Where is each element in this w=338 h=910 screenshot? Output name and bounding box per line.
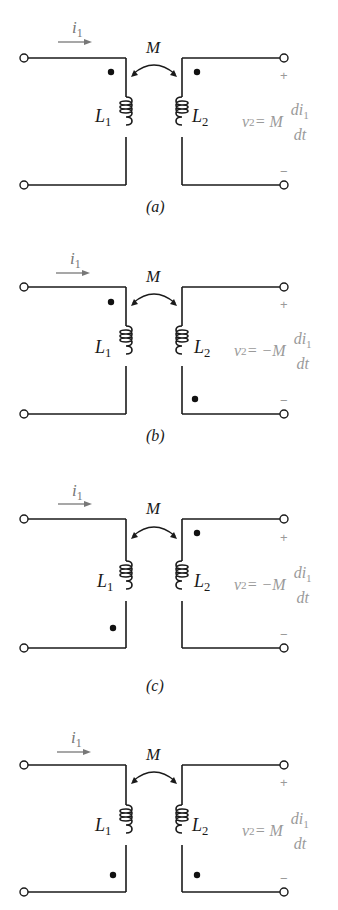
inductor-L1-label: L1	[95, 337, 111, 361]
inductor-L1-label: L1	[95, 815, 111, 839]
terminal-in-bottom	[20, 410, 28, 418]
dot-marker-L2	[194, 530, 200, 536]
dot-marker-L1	[110, 872, 116, 878]
dot-marker-L2	[194, 872, 200, 878]
mutual-inductance-label: M	[146, 745, 160, 765]
current-label: i1	[72, 481, 83, 504]
dot-marker-L1	[108, 299, 114, 305]
current-label: i1	[70, 249, 81, 272]
plus-sign: +	[280, 297, 288, 312]
terminal-out-top	[280, 283, 288, 291]
current-label: i1	[71, 728, 82, 751]
terminal-out-top	[280, 54, 288, 62]
circuit-panel-a: i1 M L1 L2 + − v2 = M di1dt (a)	[0, 0, 338, 230]
terminal-in-top	[20, 761, 28, 769]
dot-marker-L1	[110, 625, 116, 631]
terminal-in-top	[20, 515, 28, 523]
minus-sign: −	[280, 393, 288, 408]
plus-sign: +	[280, 530, 288, 545]
dot-marker-L1	[108, 69, 114, 75]
current-label: i1	[72, 18, 83, 41]
terminal-in-bottom	[20, 888, 28, 896]
terminal-in-bottom	[20, 644, 28, 652]
inductor-L2-label: L2	[192, 815, 208, 839]
mutual-inductance-label: M	[146, 38, 160, 58]
terminal-out-bottom	[280, 410, 288, 418]
terminal-out-bottom	[280, 888, 288, 896]
terminal-out-bottom	[280, 644, 288, 652]
terminal-out-top	[280, 761, 288, 769]
plus-sign: +	[280, 68, 288, 83]
inductor-L2-label: L2	[194, 337, 210, 361]
inductor-L2-label: L2	[194, 571, 210, 595]
inductor-L2-label: L2	[192, 106, 208, 130]
voltage-equation: v2 = M di1dt	[242, 809, 309, 854]
minus-sign: −	[280, 164, 288, 179]
terminal-in-top	[20, 283, 28, 291]
voltage-equation: v2 = M di1dt	[242, 100, 309, 145]
inductor-L1-label: L1	[97, 571, 113, 595]
mutual-inductance-label: M	[146, 499, 160, 519]
circuit-panel-c: i1 M L1 L2 + − v2 = −M di1dt (c)	[0, 461, 338, 701]
panel-caption: (c)	[146, 677, 164, 695]
terminal-in-top	[20, 54, 28, 62]
voltage-equation: v2 = −M di1dt	[234, 563, 312, 608]
inductor-L1-label: L1	[95, 106, 111, 130]
dot-marker-L2	[192, 396, 198, 402]
panel-caption: (b)	[146, 427, 165, 445]
dot-marker-L2	[194, 69, 200, 75]
minus-sign: −	[280, 871, 288, 886]
mutual-inductance-label: M	[146, 267, 160, 287]
terminal-out-bottom	[280, 181, 288, 189]
plus-sign: +	[280, 775, 288, 790]
terminal-out-top	[280, 515, 288, 523]
panel-caption: (a)	[146, 198, 165, 216]
voltage-equation: v2 = −M di1dt	[234, 329, 312, 374]
minus-sign: −	[280, 627, 288, 642]
circuit-panel-d: i1 M L1 L2 + − v2 = M di1dt	[0, 707, 338, 910]
terminal-in-bottom	[20, 181, 28, 189]
circuit-panel-b: i1 M L1 L2 + − v2 = −M di1dt (b)	[0, 229, 338, 459]
